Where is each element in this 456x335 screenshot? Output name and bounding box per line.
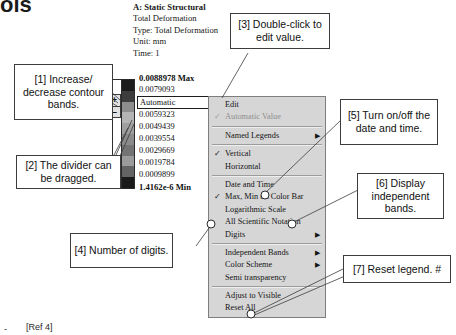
page-partial-heading: ols xyxy=(0,0,32,18)
color-band[interactable] xyxy=(122,156,134,167)
legend-value-label[interactable]: 0.0029669 xyxy=(139,145,217,157)
menu-item-color-scheme[interactable]: Color Scheme▶ xyxy=(209,259,325,271)
menu-item-max-min-on-color-bar[interactable]: ✓Max, Min on Color Bar xyxy=(209,191,325,203)
color-band[interactable] xyxy=(122,112,134,123)
menu-item-edit[interactable]: Edit xyxy=(209,99,325,111)
legend-value-edit-input[interactable]: Automatic xyxy=(137,96,217,109)
menu-item-date-and-time[interactable]: Date and Time xyxy=(209,179,325,191)
menu-item-horizontal[interactable]: Horizontal xyxy=(209,161,325,173)
menu-separator xyxy=(212,243,322,245)
legend-context-menu[interactable]: Edit✓Automatic ValueNamed Legends▶✓Verti… xyxy=(208,96,326,318)
menu-item-label: Color Scheme xyxy=(225,260,272,269)
color-band[interactable] xyxy=(122,145,134,156)
checkmark-icon: ✓ xyxy=(214,111,221,123)
result-header-line-4: Unit: mm xyxy=(133,36,218,47)
menu-item-label: Reset All xyxy=(225,303,256,312)
legend-value-label[interactable]: 0.0088978 Max xyxy=(139,72,217,84)
result-header-line-1: A: Static Structural xyxy=(133,2,218,13)
legend-value-label[interactable]: 0.0049439 xyxy=(139,121,217,133)
submenu-arrow-icon: ▶ xyxy=(315,130,320,142)
legend-value-label[interactable]: 0.0019784 xyxy=(139,157,217,169)
callout-1-increase-decrease-bands: [1] Increase/ decrease contour bands. xyxy=(14,64,113,120)
menu-item-label: Named Legends xyxy=(225,131,279,140)
callout-2-divider-draggable: [2] The divider can be dragged. xyxy=(16,155,121,189)
color-band[interactable] xyxy=(122,123,134,134)
callout-3-double-click-edit: [3] Double-click to edit value. xyxy=(230,13,330,49)
legend-value-label[interactable]: 1.4162e-6 Min xyxy=(139,181,217,193)
menu-item-all-scientific-notation[interactable]: All Scientific Notation xyxy=(209,216,325,228)
color-band[interactable] xyxy=(122,166,134,177)
menu-item-label: Independent Bands xyxy=(225,248,289,257)
menu-item-label: Horizontal xyxy=(225,162,260,171)
color-band[interactable] xyxy=(122,91,134,102)
legend-value-label[interactable]: 0.0039554 xyxy=(139,133,217,145)
callout-5-date-time-toggle: [5] Turn on/off the date and time. xyxy=(340,99,438,145)
callout-6-independent-bands: [6] Display independent bands. xyxy=(357,173,444,219)
menu-item-label: Date and Time xyxy=(225,180,274,189)
color-band[interactable] xyxy=(122,102,134,113)
menu-item-digits[interactable]: Digits▶ xyxy=(209,229,325,241)
legend-value-label[interactable]: 0.0059323 xyxy=(139,109,217,121)
menu-item-label: Max, Min on Color Bar xyxy=(225,192,304,201)
menu-item-adjust-to-visible[interactable]: Adjust to Visible xyxy=(209,290,325,302)
menu-item-label: Logarithmic Scale xyxy=(225,205,286,214)
ref-note: [Ref 4] xyxy=(26,322,53,332)
menu-separator xyxy=(212,286,322,288)
menu-item-label: All Scientific Notation xyxy=(225,217,301,226)
callout-7-reset-legend: [7] Reset legend. # xyxy=(343,255,451,283)
callout-4-number-of-digits: [4] Number of digits. xyxy=(70,233,173,268)
color-band[interactable] xyxy=(122,177,134,188)
menu-item-label: Edit xyxy=(225,100,239,109)
submenu-arrow-icon: ▶ xyxy=(315,259,320,271)
result-header-block: A: Static Structural Total Deformation T… xyxy=(133,2,218,59)
menu-separator xyxy=(212,144,322,146)
submenu-arrow-icon: ▶ xyxy=(315,247,320,259)
legend-value-label[interactable]: 0.0009899 xyxy=(139,169,217,181)
legend-value-list: 0.0088978 Max0.0079093Automatic0.0059323… xyxy=(139,72,217,193)
menu-item-logarithmic-scale[interactable]: Logarithmic Scale xyxy=(209,204,325,216)
result-header-line-2: Total Deformation xyxy=(133,13,218,24)
legend-value-label[interactable]: 0.0079093 xyxy=(139,84,217,96)
menu-item-automatic-value: ✓Automatic Value xyxy=(209,111,325,123)
color-band[interactable] xyxy=(122,134,134,145)
submenu-arrow-icon: ▶ xyxy=(315,229,320,241)
menu-item-label: Automatic Value xyxy=(225,112,281,121)
legend-color-bar[interactable] xyxy=(121,79,135,189)
menu-item-independent-bands[interactable]: Independent Bands▶ xyxy=(209,247,325,259)
menu-item-label: Digits xyxy=(225,230,245,239)
checkmark-icon: ✓ xyxy=(214,148,221,160)
menu-item-label: Adjust to Visible xyxy=(225,291,281,300)
menu-item-named-legends[interactable]: Named Legends▶ xyxy=(209,130,325,142)
menu-item-label: Vertical xyxy=(225,149,251,158)
menu-item-label: Semi transparency xyxy=(225,273,287,282)
menu-item-semi-transparency[interactable]: Semi transparency xyxy=(209,272,325,284)
result-header-line-3: Type: Total Deformation xyxy=(133,25,218,36)
menu-separator xyxy=(212,175,322,177)
color-band[interactable] xyxy=(122,80,134,91)
menu-item-reset-all[interactable]: Reset All xyxy=(209,302,325,314)
result-header-line-5: Time: 1 xyxy=(133,48,218,59)
menu-separator xyxy=(212,126,322,128)
ref-bullet: - xyxy=(4,324,7,334)
checkmark-icon: ✓ xyxy=(214,191,221,203)
annotated-screenshot: ols A: Static Structural Total Deformati… xyxy=(0,0,456,335)
menu-item-vertical[interactable]: ✓Vertical xyxy=(209,148,325,160)
